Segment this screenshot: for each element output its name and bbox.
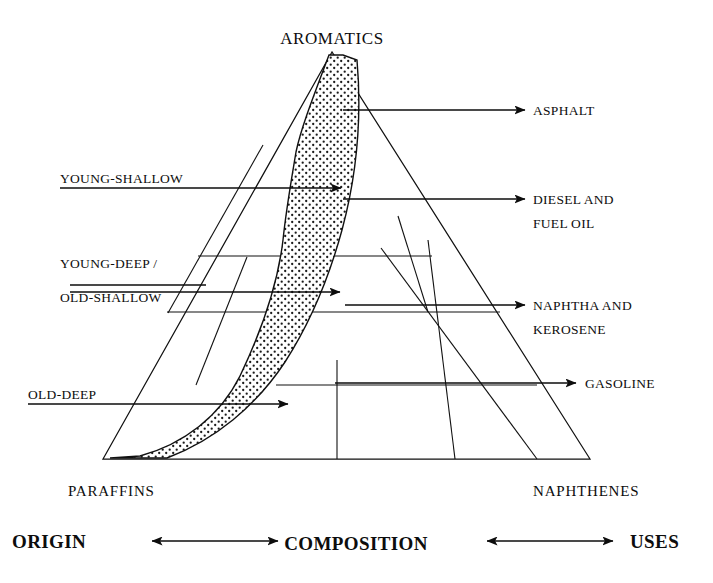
naphtha-label-line2: KEROSENE [533, 322, 606, 337]
callout-gasoline[interactable]: GASOLINE [335, 376, 655, 391]
diesel-label-line1: DIESEL AND [533, 192, 614, 207]
asphalt-label: ASPHALT [533, 103, 595, 118]
bottom-left-label: PARAFFINS [68, 483, 155, 499]
young-shallow-label: YOUNG-SHALLOW [60, 171, 183, 186]
internal-horizontal-lines [167, 256, 537, 385]
naphtha-label-line1: NAPHTHA AND [533, 298, 632, 313]
bottom-right-label: NAPHTHENES [533, 483, 639, 499]
young-deep-label: YOUNG-DEEP / [60, 256, 157, 271]
ternary-diagram: AROMATICS PARAFFINS NAPHTHENES YOUNG-SHA… [0, 0, 713, 583]
footer-right-label: USES [630, 531, 679, 552]
diesel-label-line2: FUEL OIL [533, 216, 595, 231]
apex-label: AROMATICS [280, 29, 384, 48]
footer-bar: ORIGIN COMPOSITION USES [12, 531, 679, 554]
footer-left-label: ORIGIN [12, 531, 86, 552]
old-deep-label: OLD-DEEP [28, 387, 96, 402]
footer-center-label: COMPOSITION [284, 533, 428, 554]
ternary-diagram-canvas: AROMATICS PARAFFINS NAPHTHENES YOUNG-SHA… [0, 0, 713, 583]
callout-asphalt[interactable]: ASPHALT [343, 103, 595, 118]
callout-naphtha[interactable]: NAPHTHA AND KEROSENE [345, 298, 632, 337]
callout-diesel[interactable]: DIESEL AND FUEL OIL [343, 192, 614, 231]
gasoline-label: GASOLINE [585, 376, 655, 391]
